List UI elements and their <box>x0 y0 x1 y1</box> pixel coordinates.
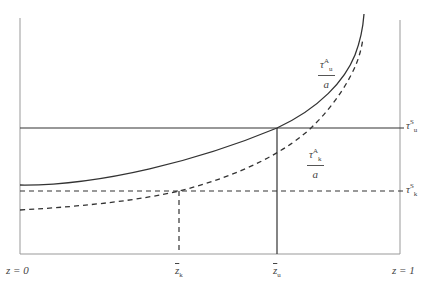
z-1-label: z = 1 <box>392 264 415 276</box>
subscript: u <box>329 65 333 73</box>
superscript: S <box>410 182 414 190</box>
superscript: A <box>324 57 329 65</box>
subscript: k <box>318 155 322 163</box>
z-0-label: z = 0 <box>6 264 29 276</box>
denominator: a <box>318 76 335 90</box>
subscript: k <box>414 190 418 198</box>
superscript: S <box>410 118 414 126</box>
diagram-canvas <box>0 0 428 292</box>
denominator: a <box>307 166 324 180</box>
tau-k-a-curve <box>20 38 363 210</box>
tau-k-s-label: τSk <box>406 182 417 198</box>
tau-u-s-label: τSu <box>406 118 417 134</box>
z-bar-k-label: zk <box>175 264 183 279</box>
subscript: u <box>277 271 281 279</box>
z-bar-u-label: zu <box>273 264 281 279</box>
tau-u-a-label: τAu a <box>318 58 335 90</box>
subscript: k <box>179 271 183 279</box>
subscript: u <box>414 126 418 134</box>
superscript: A <box>313 147 318 155</box>
tau-k-a-label: τAk a <box>307 148 324 180</box>
